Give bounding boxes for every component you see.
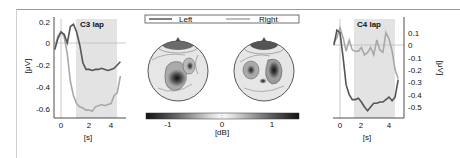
c4-lap-panel: C4 lap 0.1 0 -0.1 -0.2 -0.3 -0.4 -0.5 0 …	[333, 17, 445, 142]
y-tick: -0.4	[408, 91, 422, 100]
y-axis-label: [μV]	[436, 61, 445, 75]
panel-title: C4 lap	[357, 20, 381, 29]
legend-label-right: Right	[259, 15, 278, 24]
colorbar-tick: 1	[270, 120, 275, 129]
colorbar-tick: -1	[164, 120, 172, 129]
colorbar-label: [dB]	[215, 128, 229, 137]
y-tick: -0.5	[408, 103, 422, 112]
x-tick: 4	[109, 121, 114, 130]
y-tick: -0.6	[36, 105, 50, 114]
y-tick: -0.1	[408, 54, 422, 63]
topomap-left	[148, 37, 208, 101]
y-tick: 0.1	[408, 29, 420, 38]
topomap-right	[234, 37, 294, 101]
panel-title: C3 lap	[80, 20, 104, 29]
x-tick: 2	[359, 121, 364, 130]
legend-label-left: Left	[179, 15, 193, 24]
y-tick: 0	[46, 39, 51, 48]
x-tick: 2	[87, 121, 92, 130]
x-tick: 0	[59, 121, 64, 130]
y-tick: 0	[408, 41, 413, 50]
topography-panel: Left Right	[145, 15, 299, 137]
y-tick: -0.3	[408, 78, 422, 87]
colorbar	[146, 113, 299, 119]
x-tick: 0	[338, 121, 343, 130]
x-axis-label: [s]	[363, 133, 371, 142]
x-tick: 4	[387, 121, 392, 130]
y-tick: -0.4	[36, 83, 50, 92]
y-tick: -0.2	[408, 66, 422, 75]
c3-lap-panel: C3 lap 0.2 0 -0.2 -0.4 -0.6 0 2 4 [s] [μ…	[23, 17, 126, 142]
y-tick: -0.2	[36, 61, 50, 70]
x-axis-label: [s]	[84, 133, 92, 142]
y-axis-label: [μV]	[23, 59, 32, 73]
y-tick: 0.2	[39, 18, 51, 27]
